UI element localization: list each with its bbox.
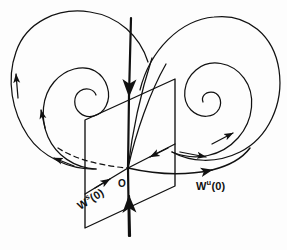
vertical-axis: [128, 18, 131, 236]
vertical-upper-shaft: [128, 96, 129, 168]
unstable-manifold-label: Wu(0): [196, 178, 225, 192]
wu-base: W: [196, 180, 207, 192]
right-spiral-arrow-inner: [212, 133, 233, 144]
vertical-arrow-up: [129, 196, 130, 236]
vertical-arrow-down: [129, 18, 131, 96]
unstable-manifold-curve: [128, 148, 250, 174]
phase-portrait-svg: [0, 0, 287, 250]
origin-label: O: [118, 178, 126, 189]
left-inner-spiral: [43, 68, 108, 169]
wu-argument: (0): [211, 180, 225, 192]
right-outer-loop: [140, 17, 280, 161]
right-inner-spiral: [172, 63, 252, 157]
figure-canvas: Wu(0) Ws(0) O: [0, 0, 287, 250]
diagonal-arrow-right: [150, 148, 168, 157]
right-spiral: [140, 17, 280, 161]
unstable-exit-right: [128, 168, 212, 174]
left-spiral-arrow-up: [16, 74, 18, 98]
